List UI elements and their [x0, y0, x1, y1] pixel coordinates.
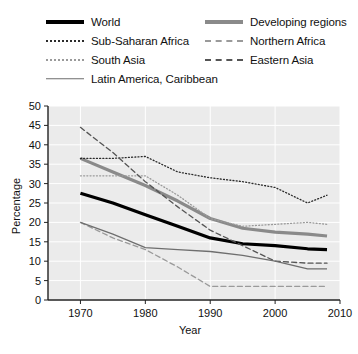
- legend-label-developing-regions: Developing regions: [250, 16, 347, 28]
- legend-item-world: World: [46, 12, 216, 31]
- legend-label-northern-africa: Northern Africa: [250, 35, 325, 47]
- legend-item-sub-saharan-africa: Sub-Saharan Africa: [46, 31, 216, 50]
- legend-label-sub-saharan-africa: Sub-Saharan Africa: [91, 35, 189, 47]
- legend-swatch-world-line-icon: [46, 16, 84, 28]
- legend-item-developing-regions: Developing regions: [205, 12, 355, 31]
- legend-column-left: World Sub-Saharan Africa South Asia Lati…: [46, 12, 216, 88]
- legend-label-latin-america-caribbean: Latin America, Caribbean: [91, 73, 218, 85]
- y-tick-label: 20: [29, 216, 41, 228]
- legend-label-eastern-asia: Eastern Asia: [250, 54, 313, 66]
- chart-legend: World Sub-Saharan Africa South Asia Lati…: [0, 12, 358, 90]
- chart-plot-area: 0510152025303540455019701980199020002010…: [0, 92, 358, 354]
- legend-item-northern-africa: Northern Africa: [205, 31, 355, 50]
- y-tick-label: 15: [29, 236, 41, 248]
- legend-label-south-asia: South Asia: [91, 54, 145, 66]
- legend-column-right: Developing regions Northern Africa Easte…: [205, 12, 355, 69]
- legend-item-south-asia: South Asia: [46, 50, 216, 69]
- legend-swatch-south-asia-line-icon: [46, 54, 84, 66]
- y-tick-label: 30: [29, 178, 41, 190]
- y-tick-label: 0: [35, 294, 41, 306]
- x-tick-label: 1990: [198, 307, 222, 319]
- y-tick-label: 45: [29, 119, 41, 131]
- legend-swatch-sub-saharan-africa-line-icon: [46, 35, 84, 47]
- y-tick-label: 40: [29, 139, 41, 151]
- y-tick-label: 25: [29, 197, 41, 209]
- y-axis-title: Percentage: [10, 166, 22, 246]
- x-tick-label: 1970: [68, 307, 92, 319]
- legend-swatch-latin-america-line-icon: [46, 73, 84, 85]
- y-tick-label: 50: [29, 100, 41, 112]
- x-axis-title: Year: [40, 324, 340, 336]
- legend-swatch-eastern-asia-line-icon: [205, 54, 243, 66]
- x-tick-label: 2010: [328, 307, 352, 319]
- x-tick-label: 1980: [133, 307, 157, 319]
- legend-item-eastern-asia: Eastern Asia: [205, 50, 355, 69]
- y-tick-label: 10: [29, 255, 41, 267]
- x-tick-label: 2000: [263, 307, 287, 319]
- legend-swatch-developing-regions-line-icon: [205, 16, 243, 28]
- chart-figure: World Sub-Saharan Africa South Asia Lati…: [0, 0, 358, 354]
- legend-swatch-northern-africa-line-icon: [205, 35, 243, 47]
- legend-label-world: World: [91, 16, 120, 28]
- y-tick-label: 5: [35, 275, 41, 287]
- y-tick-label: 35: [29, 158, 41, 170]
- legend-item-latin-america-caribbean: Latin America, Caribbean: [46, 69, 216, 88]
- chart-svg: 0510152025303540455019701980199020002010: [0, 92, 358, 354]
